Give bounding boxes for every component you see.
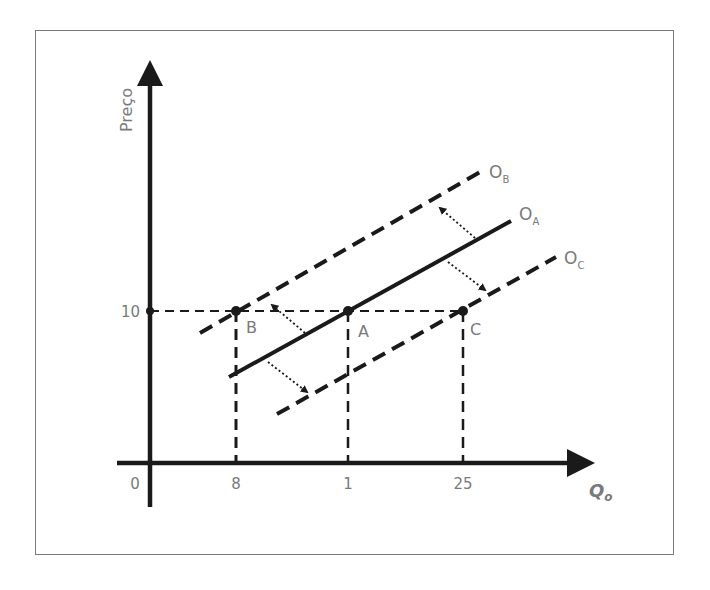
x-tick-label-0: 0 bbox=[130, 475, 140, 493]
x-tick-label-8: 8 bbox=[231, 475, 241, 493]
shift-arrow-up-1 bbox=[440, 208, 475, 238]
shift-arrow-up-2 bbox=[272, 305, 305, 333]
point-c bbox=[458, 306, 468, 316]
supply-shift-diagram: Preço Qo 10 0 8 1 25 B A C OB OA OC bbox=[0, 0, 710, 590]
supply-curve-oc bbox=[277, 257, 556, 414]
shift-arrow-down-2 bbox=[268, 362, 307, 392]
curve-label-oc: OC bbox=[564, 248, 584, 271]
y-axis-arrowhead bbox=[137, 60, 163, 86]
price-tick-dot bbox=[146, 307, 154, 315]
curve-label-oa: OA bbox=[519, 204, 539, 227]
shift-arrow-down-1 bbox=[448, 262, 485, 290]
point-label-a: A bbox=[358, 322, 369, 341]
y-tick-label-10: 10 bbox=[121, 303, 140, 321]
x-tick-label-1: 1 bbox=[343, 475, 353, 493]
x-tick-label-25: 25 bbox=[453, 475, 472, 493]
point-label-b: B bbox=[246, 318, 257, 337]
x-axis-label: Qo bbox=[589, 480, 613, 504]
curve-label-ob: OB bbox=[489, 162, 509, 185]
y-axis-label: Preço bbox=[117, 88, 136, 132]
supply-curve-oa bbox=[229, 221, 511, 377]
point-a bbox=[343, 306, 353, 316]
point-b bbox=[231, 306, 241, 316]
x-axis-arrowhead bbox=[567, 449, 595, 477]
supply-curve-ob bbox=[200, 171, 482, 333]
point-label-c: C bbox=[470, 320, 481, 339]
